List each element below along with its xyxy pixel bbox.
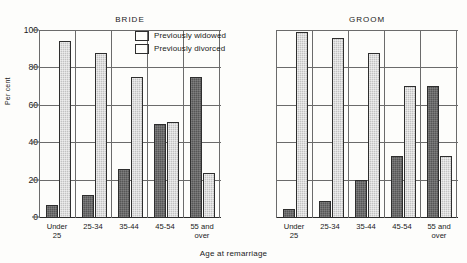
cat-line1: 35-44 — [119, 222, 138, 231]
x-tick-groom-25-34: 25-34 — [312, 222, 348, 231]
x-axis-title: Age at remarriage — [0, 249, 467, 258]
bar-group-bride-35-44 — [111, 30, 147, 218]
panel-groom: GROOM — [276, 0, 458, 263]
x-tick-groom-45-54: 45-54 — [384, 222, 420, 231]
bar-bride-widowed-45-54[interactable] — [154, 124, 166, 218]
x-tick-bride-35-44: 35-44 — [111, 222, 147, 231]
bar-groom-divorced-35-44[interactable] — [368, 53, 380, 218]
cat-line2: 25 — [290, 231, 298, 240]
bar-groom-divorced-55-over[interactable] — [440, 156, 452, 218]
bar-groom-widowed-55-over[interactable] — [427, 86, 439, 218]
bar-bride-widowed-25-34[interactable] — [82, 195, 94, 218]
bar-group-groom-55-over — [420, 30, 456, 218]
group-separator — [219, 30, 220, 218]
legend-item-divorced: Previously divorced — [135, 42, 226, 55]
chart-legend: Previously widowed Previously divorced — [135, 29, 226, 55]
y-axis: 100 80 60 40 20 0 — [14, 0, 38, 263]
cat-line2: over — [195, 231, 210, 240]
cat-line2: over — [432, 231, 447, 240]
bar-group-bride-55-over — [183, 30, 219, 218]
legend-item-widowed: Previously widowed — [135, 29, 226, 42]
cat-line2: 25 — [53, 231, 61, 240]
bar-bride-widowed-35-44[interactable] — [118, 169, 130, 218]
legend-label-divorced: Previously divorced — [154, 44, 225, 53]
bar-groom-divorced-45-54[interactable] — [404, 86, 416, 218]
x-tick-groom-35-44: 35-44 — [348, 222, 384, 231]
y-dash-80 — [32, 67, 39, 68]
cat-line1: 25-34 — [83, 222, 102, 231]
x-tick-bride-55-over: 55 andover — [183, 222, 221, 240]
bar-groom-widowed-under25[interactable] — [283, 209, 295, 218]
y-dash-20 — [32, 179, 39, 180]
bar-bride-divorced-25-34[interactable] — [95, 53, 107, 218]
legend-swatch-divorced-icon — [135, 44, 149, 54]
bar-bride-widowed-under25[interactable] — [46, 205, 58, 218]
y-dash-60 — [32, 104, 39, 105]
bar-groom-widowed-25-34[interactable] — [319, 201, 331, 218]
bar-groom-divorced-under25[interactable] — [296, 32, 308, 218]
x-tick-groom-under25: Under25 — [276, 222, 312, 240]
bar-group-bride-45-54 — [147, 30, 183, 218]
y-dash-40 — [32, 142, 39, 143]
legend-swatch-widowed-icon — [135, 31, 149, 41]
bar-group-groom-25-34 — [312, 30, 348, 218]
group-separator — [456, 30, 457, 218]
plot-area-bride — [39, 30, 221, 218]
bar-groom-widowed-35-44[interactable] — [355, 180, 367, 218]
panel-title-bride: BRIDE — [39, 15, 221, 24]
bar-groom-divorced-25-34[interactable] — [332, 38, 344, 219]
y-axis-label: Per cent — [4, 77, 11, 105]
x-tick-groom-55-over: 55 andover — [420, 222, 458, 240]
bar-bride-divorced-35-44[interactable] — [131, 77, 143, 218]
cat-line1: 25-34 — [320, 222, 339, 231]
panel-title-groom: GROOM — [276, 15, 458, 24]
bar-bride-widowed-55-over[interactable] — [190, 77, 202, 218]
cat-line1: 55 and — [190, 222, 213, 231]
legend-label-widowed: Previously widowed — [154, 31, 226, 40]
bar-bride-divorced-under25[interactable] — [59, 41, 71, 218]
bar-groom-widowed-45-54[interactable] — [391, 156, 403, 218]
cat-line1: 45-54 — [155, 222, 174, 231]
cat-line1: Under — [47, 222, 68, 231]
x-tick-bride-under25: Under25 — [39, 222, 75, 240]
bar-group-groom-45-54 — [384, 30, 420, 218]
chart-figure: 100 80 60 40 20 0 Per cent BRIDE — [0, 0, 467, 263]
y-dash-100 — [32, 30, 39, 31]
cat-line1: 35-44 — [356, 222, 375, 231]
cat-line1: 55 and — [427, 222, 450, 231]
bar-group-groom-35-44 — [348, 30, 384, 218]
bar-bride-divorced-55-over[interactable] — [203, 173, 215, 218]
bar-bride-divorced-45-54[interactable] — [167, 122, 179, 218]
cat-line1: 45-54 — [392, 222, 411, 231]
bar-group-bride-25-34 — [75, 30, 111, 218]
y-dash-0 — [32, 217, 39, 218]
bar-group-bride-under25 — [39, 30, 75, 218]
cat-line1: Under — [284, 222, 305, 231]
plot-area-groom — [276, 30, 458, 218]
bar-group-groom-under25 — [276, 30, 312, 218]
x-tick-bride-45-54: 45-54 — [147, 222, 183, 231]
x-tick-bride-25-34: 25-34 — [75, 222, 111, 231]
